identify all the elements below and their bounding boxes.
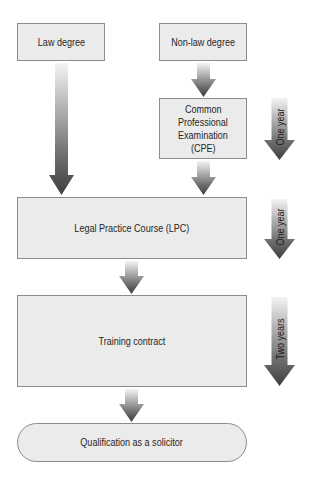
duration-label-training: Two years xyxy=(274,315,286,363)
node-law-degree: Law degree xyxy=(17,23,105,61)
node-lpc: Legal Practice Course (LPC) xyxy=(17,197,247,259)
arrow-down-icon xyxy=(49,63,74,195)
node-label: Qualification as a solicitor xyxy=(81,436,183,449)
node-non-law-degree: Non-law degree xyxy=(159,23,247,61)
arrow-down-icon xyxy=(119,389,144,422)
duration-label-cpe: One year xyxy=(274,106,286,147)
node-label: Legal Practice Course (LPC) xyxy=(75,222,190,235)
arrow-down-icon xyxy=(191,161,216,195)
node-cpe: Common Professional Examination (CPE) xyxy=(159,98,247,159)
node-label-line: Common xyxy=(185,103,222,116)
node-label-line: (CPE) xyxy=(191,142,216,155)
arrow-down-icon xyxy=(191,63,216,97)
duration-label-lpc: One year xyxy=(274,206,286,247)
node-label-line: Examination xyxy=(178,129,228,142)
arrow-down-icon xyxy=(119,261,144,294)
node-qualification: Qualification as a solicitor xyxy=(17,423,247,462)
node-label-line: Professional xyxy=(178,116,228,129)
node-training-contract: Training contract xyxy=(17,295,247,387)
node-label: Law degree xyxy=(37,36,84,49)
node-label: Training contract xyxy=(99,335,166,348)
node-label: Non-law degree xyxy=(171,36,235,49)
